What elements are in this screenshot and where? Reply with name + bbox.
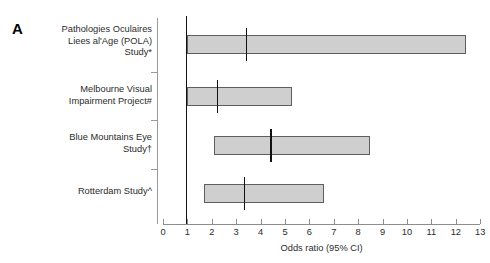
x-axis-tick-label: 0 xyxy=(151,227,175,237)
x-axis-tick-label: 8 xyxy=(346,227,370,237)
confidence-interval-box xyxy=(204,184,324,203)
x-axis-tick-label: 13 xyxy=(468,227,490,237)
x-axis-tick xyxy=(334,219,335,224)
x-axis-tick xyxy=(407,219,408,224)
x-axis-tick-label: 2 xyxy=(200,227,224,237)
x-axis-tick xyxy=(480,219,481,224)
x-axis-tick-label: 11 xyxy=(419,227,443,237)
confidence-interval-box xyxy=(187,87,292,106)
y-axis-tick xyxy=(151,120,157,121)
x-axis-tick xyxy=(261,219,262,224)
y-axis-tick xyxy=(151,169,157,170)
x-axis-tick xyxy=(431,219,432,224)
point-estimate-marker xyxy=(217,80,218,113)
x-axis-tick-label: 9 xyxy=(371,227,395,237)
x-axis-tick xyxy=(383,219,384,224)
point-estimate-marker xyxy=(270,129,271,162)
x-axis-tick xyxy=(163,219,164,224)
confidence-interval-box xyxy=(187,35,465,54)
x-axis-title: Odds ratio (95% CI) xyxy=(163,243,480,253)
x-axis-line xyxy=(163,224,480,225)
x-axis-tick-label: 7 xyxy=(322,227,346,237)
x-axis-tick xyxy=(309,219,310,224)
y-axis-tick xyxy=(151,72,157,73)
x-axis-tick xyxy=(456,219,457,224)
point-estimate-marker xyxy=(244,177,245,210)
x-axis-tick-label: 4 xyxy=(249,227,273,237)
x-axis-tick xyxy=(212,219,213,224)
x-axis-tick xyxy=(358,219,359,224)
x-axis-tick-label: 12 xyxy=(444,227,468,237)
x-axis-tick xyxy=(285,219,286,224)
x-axis-tick-label: 6 xyxy=(297,227,321,237)
x-axis-tick xyxy=(187,219,188,224)
x-axis-tick-label: 5 xyxy=(273,227,297,237)
x-axis-tick-label: 10 xyxy=(395,227,419,237)
confidence-interval-box xyxy=(214,136,370,155)
forest-plot-figure: A Pathologies Oculaires Liees al'Age (PO… xyxy=(0,0,490,263)
x-axis-tick-label: 1 xyxy=(175,227,199,237)
x-axis-tick xyxy=(236,219,237,224)
x-axis-tick-label: 3 xyxy=(224,227,248,237)
y-axis-spine xyxy=(157,18,158,224)
point-estimate-marker xyxy=(246,28,247,61)
plot-area: 012345678910111213 Odds ratio (95% CI) xyxy=(0,0,490,263)
